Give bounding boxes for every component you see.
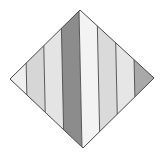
stripe-6: [97, 0, 118, 160]
stripe-3: [43, 0, 64, 160]
striped-diamond-figure: [0, 0, 160, 160]
stripes-group: [0, 0, 160, 160]
stripe-7: [115, 0, 136, 160]
stripe-1: [0, 0, 28, 160]
stripe-2: [25, 0, 46, 160]
stripe-8: [133, 0, 160, 160]
